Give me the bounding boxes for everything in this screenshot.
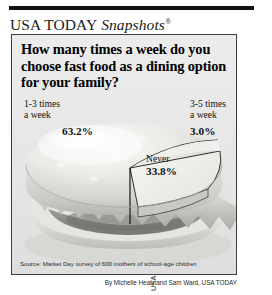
- snapshot-graphic: USA TODAY Snapshots® USA TODAY, Septembe…: [0, 0, 272, 295]
- label-3-5-times-line2: a week: [190, 109, 217, 120]
- label-1-3-times-line1: 1-3 times: [24, 98, 60, 109]
- label-3-5-times: 3-5 times a week 3.0%: [190, 98, 226, 137]
- label-1-3-times-line2: a week: [24, 109, 51, 120]
- source-note: Source: Market Day survey of 600 mothers…: [20, 260, 197, 268]
- value-3-5-times: 3.0%: [190, 126, 226, 137]
- brand-usatoday: USA TODAY: [10, 16, 97, 33]
- registered-trademark-icon: ®: [165, 17, 171, 26]
- brand-title: USA TODAY Snapshots®: [10, 12, 240, 32]
- label-1-3-times: 1-3 times a week 63.2%: [24, 98, 93, 137]
- page-title: How many times a week do you choose fast…: [21, 41, 229, 91]
- brand-snapshots: Snapshots: [101, 16, 165, 33]
- value-1-3-times: 63.2%: [62, 126, 93, 137]
- chart-panel: How many times a week do you choose fast…: [11, 34, 237, 275]
- byline: By Michelle Healy and Sam Ward, USA TODA…: [11, 279, 237, 286]
- vertical-credit: USA TODAY, September 17, 2009. Reprinted…: [257, 0, 271, 295]
- top-rule: [9, 6, 254, 10]
- label-never-line1: Never: [146, 153, 169, 164]
- label-3-5-times-line1: 3-5 times: [190, 98, 226, 109]
- label-never: Never 33.8%: [146, 153, 177, 177]
- value-never: 33.8%: [146, 166, 177, 177]
